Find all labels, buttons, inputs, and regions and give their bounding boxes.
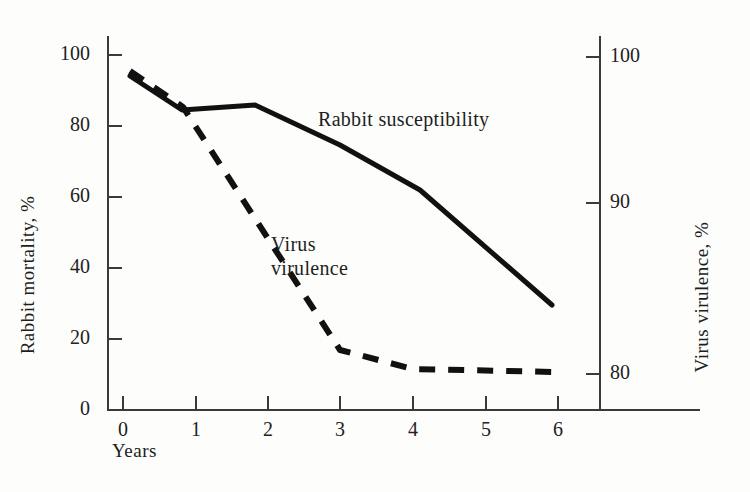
- left-axis-ticks: [108, 55, 122, 410]
- left-tick-label-60: 60: [32, 184, 90, 207]
- x-axis-title: Years: [112, 440, 157, 462]
- series-label-rabbit-susceptibility: Rabbit susceptibility: [318, 108, 489, 131]
- right-tick-label-90: 90: [610, 190, 670, 213]
- x-tick-label-1: 1: [176, 418, 216, 441]
- series-label-virus-virulence: Virus virulence: [271, 233, 348, 280]
- x-tick-label-0: 0: [103, 418, 143, 441]
- y-axis-left-title: Rabbit mortality, %: [17, 155, 39, 395]
- left-tick-label-0: 0: [32, 397, 90, 420]
- x-tick-label-5: 5: [466, 418, 506, 441]
- right-axis-ticks: [586, 57, 600, 374]
- x-tick-label-4: 4: [393, 418, 433, 441]
- left-tick-label-40: 40: [32, 255, 90, 278]
- right-tick-label-100: 100: [610, 44, 670, 67]
- left-tick-label-80: 80: [32, 113, 90, 136]
- x-tick-label-6: 6: [538, 418, 578, 441]
- right-tick-label-80: 80: [610, 361, 670, 384]
- y-axis-right-title: Virus virulence, %: [691, 177, 713, 417]
- bottom-axis-ticks: [123, 396, 558, 410]
- series-label-virus-line-2: virulence: [271, 257, 348, 281]
- chart-figure: 100 80 60 40 20 0 100 90 80 0 1 2 3 4 5 …: [0, 0, 750, 492]
- x-tick-label-2: 2: [248, 418, 288, 441]
- left-tick-label-20: 20: [32, 326, 90, 349]
- left-tick-label-100: 100: [32, 42, 90, 65]
- x-tick-label-3: 3: [320, 418, 360, 441]
- series-label-virus-line-1: Virus: [271, 233, 348, 257]
